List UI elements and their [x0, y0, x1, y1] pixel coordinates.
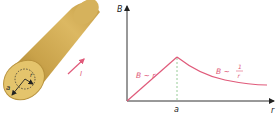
- radius-a-label: a: [6, 84, 10, 92]
- cylindrical-conductor: a r: [0, 0, 104, 108]
- current-label: I: [80, 70, 82, 78]
- x-tick-a-label: a: [174, 105, 179, 114]
- annotation-fraction-numerator: 1: [238, 63, 242, 70]
- x-axis-label: r: [271, 106, 275, 115]
- b-vs-r-graph: B r a B ~ r B ~ 1 r: [117, 5, 275, 115]
- magnetic-field-figure: a r I B r a B ~ r B ~ 1 r: [0, 0, 278, 117]
- annotation-fraction-denominator: r: [238, 72, 241, 79]
- annotation-b-proportional-r: B ~ r: [136, 71, 156, 80]
- annotation-b-proportional-inverse-r-prefix: B ~: [216, 67, 230, 76]
- y-axis-label: B: [117, 5, 123, 14]
